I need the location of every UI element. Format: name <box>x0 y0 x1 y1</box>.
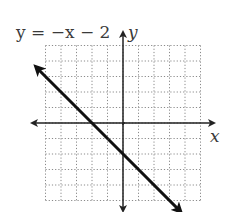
function-line <box>36 67 180 211</box>
coordinate-plane <box>0 0 226 212</box>
